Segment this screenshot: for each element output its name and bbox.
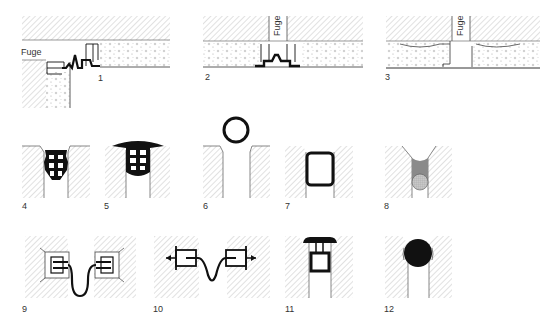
panel-1-drawing: [22, 16, 170, 108]
panel-label-5: 5: [104, 201, 109, 211]
panel-label-4: 4: [22, 201, 27, 211]
panel-10-drawing: [154, 236, 270, 298]
panel-label-7: 7: [285, 201, 290, 211]
panel-11-drawing: [285, 236, 353, 298]
panel-label-12: 12: [384, 304, 394, 314]
panel-12-drawing: [385, 236, 452, 298]
joint-label-panel-3: Fuge: [455, 15, 465, 36]
panel-8-drawing: [385, 146, 452, 198]
panel-9-drawing: [25, 236, 136, 298]
panel-label-9: 9: [22, 304, 27, 314]
panel-label-3: 3: [385, 72, 390, 82]
joint-label-panel-1: Fuge: [21, 47, 42, 57]
joint-seal-diagram: [0, 0, 553, 328]
panel-2-drawing: [203, 16, 363, 67]
panel-5-drawing: [105, 141, 170, 198]
panel-label-10: 10: [153, 304, 163, 314]
panel-6-drawing: [203, 118, 270, 198]
panel-7-drawing: [285, 146, 353, 198]
panel-label-6: 6: [203, 201, 208, 211]
panel-label-11: 11: [285, 304, 294, 314]
panel-label-8: 8: [384, 201, 389, 211]
joint-label-panel-2: Fuge: [272, 15, 282, 36]
panel-label-2: 2: [205, 72, 210, 82]
panel-label-1: 1: [98, 73, 103, 83]
panel-4-drawing: [22, 146, 90, 198]
